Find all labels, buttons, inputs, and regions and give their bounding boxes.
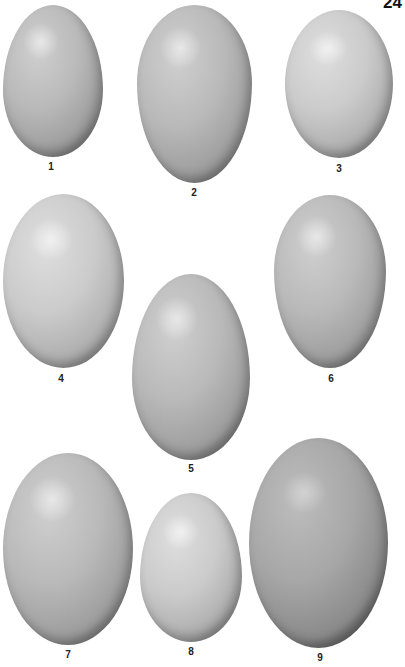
egg-5-label: 5 — [188, 463, 194, 474]
egg-6-label: 6 — [328, 373, 334, 384]
egg-4-label: 4 — [58, 373, 64, 384]
egg-4-image — [3, 194, 124, 368]
egg-9-image — [249, 438, 388, 648]
egg-3-image — [285, 10, 393, 158]
egg-1-label: 1 — [48, 161, 54, 172]
egg-3-label: 3 — [336, 163, 342, 174]
egg-8-image — [140, 493, 242, 642]
egg-2-image — [137, 5, 252, 183]
egg-5-image — [132, 274, 250, 460]
egg-9-label: 9 — [317, 652, 323, 663]
page-number: 24 — [383, 0, 402, 13]
egg-7-label: 7 — [65, 649, 71, 660]
egg-8-label: 8 — [188, 646, 194, 657]
egg-7-image — [3, 453, 133, 645]
egg-6-image — [274, 195, 386, 368]
egg-1-image — [3, 5, 103, 157]
egg-2-label: 2 — [191, 187, 197, 198]
